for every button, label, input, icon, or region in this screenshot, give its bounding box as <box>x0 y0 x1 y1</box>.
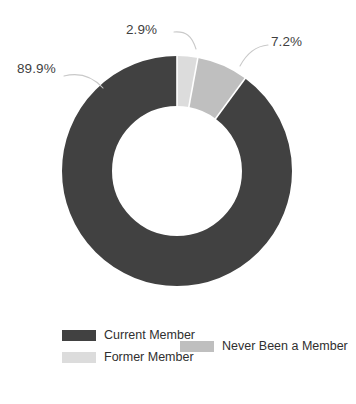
donut-chart: 89.9% 2.9% 7.2% Current Member Former Me… <box>0 0 356 404</box>
data-label-never-been-a-member: 7.2% <box>271 34 302 49</box>
data-label-current-member: 89.9% <box>17 61 56 76</box>
legend-swatch-icon-current-member <box>62 330 96 341</box>
legend-item-current-member[interactable]: Current Member <box>62 328 195 342</box>
data-label-former-member: 2.9% <box>126 22 157 37</box>
donut-slice-current-member[interactable] <box>87 81 267 261</box>
legend-swatch-icon-never-been-a-member <box>180 341 214 352</box>
legend-item-former-member[interactable]: Former Member <box>62 350 194 364</box>
donut-slices <box>87 81 267 261</box>
leader-line-former <box>174 32 196 49</box>
chart-legend: Current Member Former Member Never Been … <box>0 322 356 370</box>
legend-label-never-been-a-member: Never Been a Member <box>222 339 348 353</box>
legend-item-never-been-a-member[interactable]: Never Been a Member <box>180 339 348 353</box>
leader-line-never <box>240 45 268 66</box>
leader-line-major <box>64 75 103 89</box>
legend-swatch-icon-former-member <box>62 352 96 363</box>
